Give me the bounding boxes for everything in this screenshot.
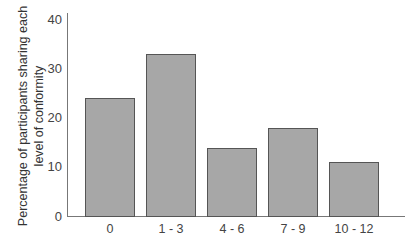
bar — [329, 162, 379, 217]
x-tick-label: 0 — [75, 222, 145, 236]
bar — [207, 148, 257, 217]
bar — [85, 98, 135, 217]
y-tick-label: 40 — [32, 12, 62, 27]
y-tick-label: 30 — [32, 61, 62, 76]
y-tick-label: 0 — [32, 209, 62, 224]
y-axis-line — [67, 13, 68, 217]
y-tick-label: 20 — [32, 110, 62, 125]
bar — [146, 54, 196, 217]
bar — [268, 128, 318, 217]
x-tick-label: 4 - 6 — [197, 222, 267, 236]
bar-chart: Percentage of participants sharing each … — [0, 0, 418, 244]
y-axis-label-line-1: Percentage of participants sharing each — [15, 6, 31, 226]
x-tick-label: 7 - 9 — [258, 222, 328, 236]
x-tick-label: 10 - 12 — [319, 222, 389, 236]
y-tick-label: 10 — [32, 159, 62, 174]
x-tick-label: 1 - 3 — [136, 222, 206, 236]
